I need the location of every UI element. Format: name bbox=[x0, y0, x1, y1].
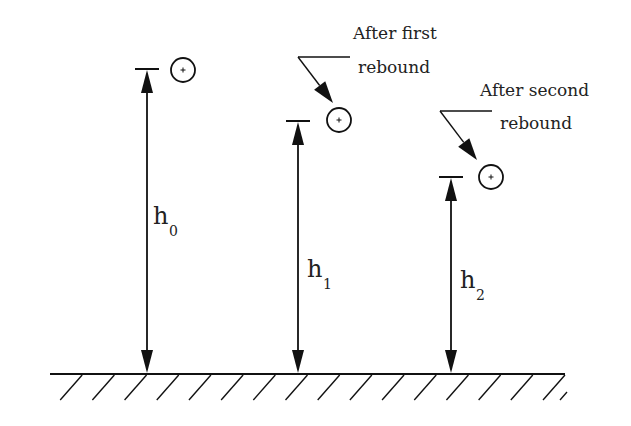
leader-line bbox=[298, 57, 320, 85]
leader-arrow-icon bbox=[314, 81, 333, 103]
leader-line bbox=[440, 111, 464, 142]
annotation-line-2: rebound bbox=[500, 113, 572, 133]
arrow-up-icon bbox=[141, 70, 153, 93]
height-label: h bbox=[153, 202, 168, 230]
height-h2: h2 bbox=[439, 165, 503, 373]
hatch-mark bbox=[318, 375, 340, 400]
height-h1: h1 bbox=[286, 108, 351, 373]
hatch-mark bbox=[92, 375, 114, 400]
ground bbox=[50, 374, 567, 400]
height-h0: h0 bbox=[135, 58, 195, 373]
height-arrows: h0h1h2 bbox=[135, 58, 503, 373]
hatch-mark bbox=[286, 375, 308, 400]
annotation-line-2: rebound bbox=[358, 57, 430, 77]
hatch-mark bbox=[157, 375, 179, 400]
hatch-mark bbox=[543, 375, 565, 400]
hatch-mark bbox=[350, 375, 372, 400]
arrow-down-icon bbox=[141, 350, 153, 373]
hatch-mark bbox=[189, 375, 211, 400]
hatch-mark bbox=[60, 375, 82, 400]
hatch-mark bbox=[511, 375, 533, 400]
hatch-mark bbox=[479, 375, 501, 400]
hatch-mark bbox=[221, 375, 243, 400]
hatch-mark bbox=[414, 375, 436, 400]
arrow-down-icon bbox=[292, 350, 304, 373]
annotation-line-1: After first bbox=[352, 23, 437, 43]
rebound-diagram: h0h1h2 After firstreboundAfter secondreb… bbox=[0, 0, 631, 426]
annotation-line-1: After second bbox=[479, 80, 589, 100]
hatch-mark bbox=[125, 375, 147, 400]
annotation-after-second: After secondrebound bbox=[440, 80, 589, 160]
hatch-mark bbox=[382, 375, 404, 400]
height-subscript: 1 bbox=[323, 276, 332, 292]
height-label: h bbox=[460, 266, 475, 294]
height-subscript: 2 bbox=[476, 287, 485, 303]
arrow-down-icon bbox=[445, 350, 457, 373]
hatch-mark bbox=[446, 375, 468, 400]
arrow-up-icon bbox=[445, 178, 457, 201]
hatch-mark bbox=[560, 392, 567, 400]
hatch-mark bbox=[253, 375, 275, 400]
height-subscript: 0 bbox=[169, 223, 178, 239]
height-label: h bbox=[307, 255, 322, 283]
annotations: After firstreboundAfter secondrebound bbox=[298, 23, 589, 160]
annotation-after-first: After firstrebound bbox=[298, 23, 437, 103]
arrow-up-icon bbox=[292, 122, 304, 145]
leader-arrow-icon bbox=[458, 138, 477, 160]
